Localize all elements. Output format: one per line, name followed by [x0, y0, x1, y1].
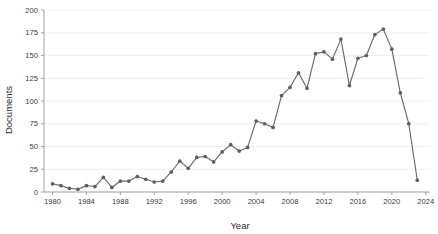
x-tick-label-1996: 1996	[180, 197, 197, 206]
y-tick-label-75: 75	[30, 119, 38, 128]
data-point-2001	[229, 143, 233, 147]
data-point-2000	[220, 150, 224, 154]
data-point-2014	[339, 37, 343, 41]
data-point-2017	[365, 54, 369, 58]
series-line-documents	[52, 29, 417, 189]
data-point-1997	[195, 156, 199, 160]
y-tick-label-50: 50	[30, 142, 38, 151]
data-point-2022	[407, 122, 411, 126]
data-point-1994	[169, 170, 173, 174]
x-tick-label-2004: 2004	[248, 197, 265, 206]
x-tick-label-2012: 2012	[316, 197, 333, 206]
data-point-2007	[280, 94, 284, 98]
data-point-1981	[59, 184, 63, 188]
x-axis-title: Year	[230, 220, 249, 231]
y-tick-label-0: 0	[34, 188, 38, 197]
data-point-2002	[237, 149, 241, 153]
x-axis-ticks: 1980198419881992199620002004200820122016…	[44, 192, 434, 206]
x-tick-label-1984: 1984	[78, 197, 95, 206]
y-tick-label-25: 25	[30, 165, 38, 174]
data-point-2011	[314, 52, 318, 56]
data-point-1983	[76, 187, 80, 191]
data-point-2016	[356, 56, 360, 60]
data-point-2010	[305, 86, 309, 90]
gridlines	[44, 10, 430, 192]
y-axis-title: Documents	[3, 86, 14, 134]
data-point-2020	[390, 47, 394, 51]
x-tick-label-2020: 2020	[383, 197, 400, 206]
y-tick-label-125: 125	[25, 74, 38, 83]
x-tick-label-2008: 2008	[282, 197, 299, 206]
data-point-1995	[178, 159, 182, 163]
x-tick-label-1980: 1980	[44, 197, 61, 206]
y-axis-ticks: 0255075100125150175200	[25, 6, 44, 197]
data-point-2003	[246, 146, 250, 150]
data-point-1986	[102, 176, 106, 180]
x-tick-label-1992: 1992	[146, 197, 163, 206]
data-point-1985	[93, 185, 97, 189]
data-point-1993	[161, 179, 165, 183]
data-point-1984	[85, 184, 89, 188]
data-point-1987	[110, 186, 114, 190]
data-point-1989	[127, 179, 131, 183]
data-point-2013	[331, 57, 335, 61]
data-point-2005	[263, 122, 267, 126]
data-point-2008	[288, 86, 292, 90]
data-point-2004	[254, 119, 258, 123]
chart-canvas: 0255075100125150175200 19801984198819921…	[0, 0, 438, 234]
data-point-2015	[348, 84, 352, 88]
data-point-1991	[144, 177, 148, 181]
data-point-1998	[203, 155, 207, 159]
data-point-2018	[373, 33, 377, 37]
x-tick-label-2024: 2024	[417, 197, 434, 206]
y-tick-label-100: 100	[25, 97, 38, 106]
data-point-2021	[398, 91, 402, 95]
data-point-1980	[51, 182, 55, 186]
data-point-1990	[135, 175, 139, 179]
data-point-1999	[212, 160, 216, 164]
x-tick-label-1988: 1988	[112, 197, 129, 206]
y-tick-label-150: 150	[25, 51, 38, 60]
x-tick-label-2016: 2016	[349, 197, 366, 206]
data-point-1988	[119, 179, 123, 183]
x-tick-label-2000: 2000	[214, 197, 231, 206]
y-tick-label-200: 200	[25, 6, 38, 15]
documents-per-year-line-chart: 0255075100125150175200 19801984198819921…	[0, 0, 438, 234]
data-point-1992	[152, 180, 156, 184]
data-series-documents	[51, 27, 419, 191]
data-point-2019	[381, 27, 385, 31]
data-point-2009	[297, 71, 301, 75]
data-point-2006	[271, 126, 275, 130]
data-point-2023	[415, 178, 419, 182]
y-tick-label-175: 175	[25, 28, 38, 37]
data-point-1996	[186, 166, 190, 170]
data-point-1982	[68, 187, 72, 191]
data-point-2012	[322, 50, 326, 54]
